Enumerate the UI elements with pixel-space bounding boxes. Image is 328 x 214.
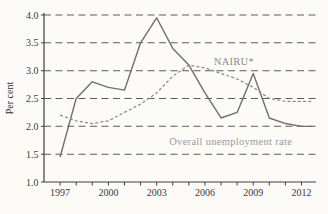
y-tick-label: 2.0: [26, 121, 39, 132]
series-line-nairu: [60, 65, 311, 123]
y-tick-label: 1.0: [26, 177, 39, 188]
y-tick-label: 2.5: [26, 93, 39, 104]
unemployment-label: Overall unemployment rate: [169, 136, 292, 147]
x-tick-label: 2003: [147, 187, 167, 198]
axes: 1.01.52.02.53.03.54.01997200020032006200…: [26, 10, 316, 199]
x-tick-label: 2009: [243, 187, 263, 198]
y-axis-title: Per cent: [4, 82, 15, 115]
series-labels: NAIRU*Overall unemployment rate: [169, 56, 292, 148]
nairu-label: NAIRU*: [214, 56, 254, 67]
unemployment-nairu-line-chart: 1.01.52.02.53.03.54.01997200020032006200…: [0, 0, 328, 214]
x-tick-label: 2012: [292, 187, 312, 198]
y-tick-label: 3.5: [26, 37, 39, 48]
x-tick-label: 1997: [50, 187, 70, 198]
y-tick-label: 1.5: [26, 149, 39, 160]
x-tick-label: 2006: [195, 187, 215, 198]
x-tick-label: 2000: [98, 187, 118, 198]
y-tick-label: 4.0: [26, 10, 39, 21]
gridlines: [44, 15, 316, 154]
y-tick-label: 3.0: [26, 65, 39, 76]
chart-canvas: 1.01.52.02.53.03.54.01997200020032006200…: [0, 0, 328, 214]
